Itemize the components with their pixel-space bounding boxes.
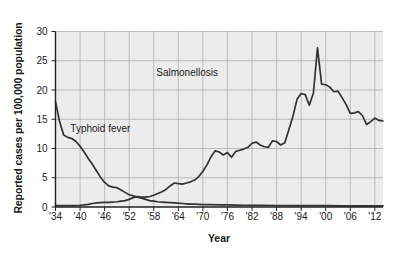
- y-tick-25: 25: [22, 55, 48, 66]
- y-tick-15: 15: [22, 114, 48, 125]
- series-label-typhoid-fever: Typhoid fever: [70, 123, 130, 134]
- y-tick-30: 30: [22, 26, 48, 37]
- y-tick-5: 5: [22, 172, 48, 183]
- x-tick-12: '12: [360, 211, 390, 222]
- y-tick-20: 20: [22, 85, 48, 96]
- chart-figure: Reported cases per 100,000 population Ye…: [0, 0, 403, 256]
- y-tick-10: 10: [22, 143, 48, 154]
- series-label-salmonellosis: Salmonellosis: [156, 67, 218, 78]
- x-axis-title: Year: [55, 232, 383, 244]
